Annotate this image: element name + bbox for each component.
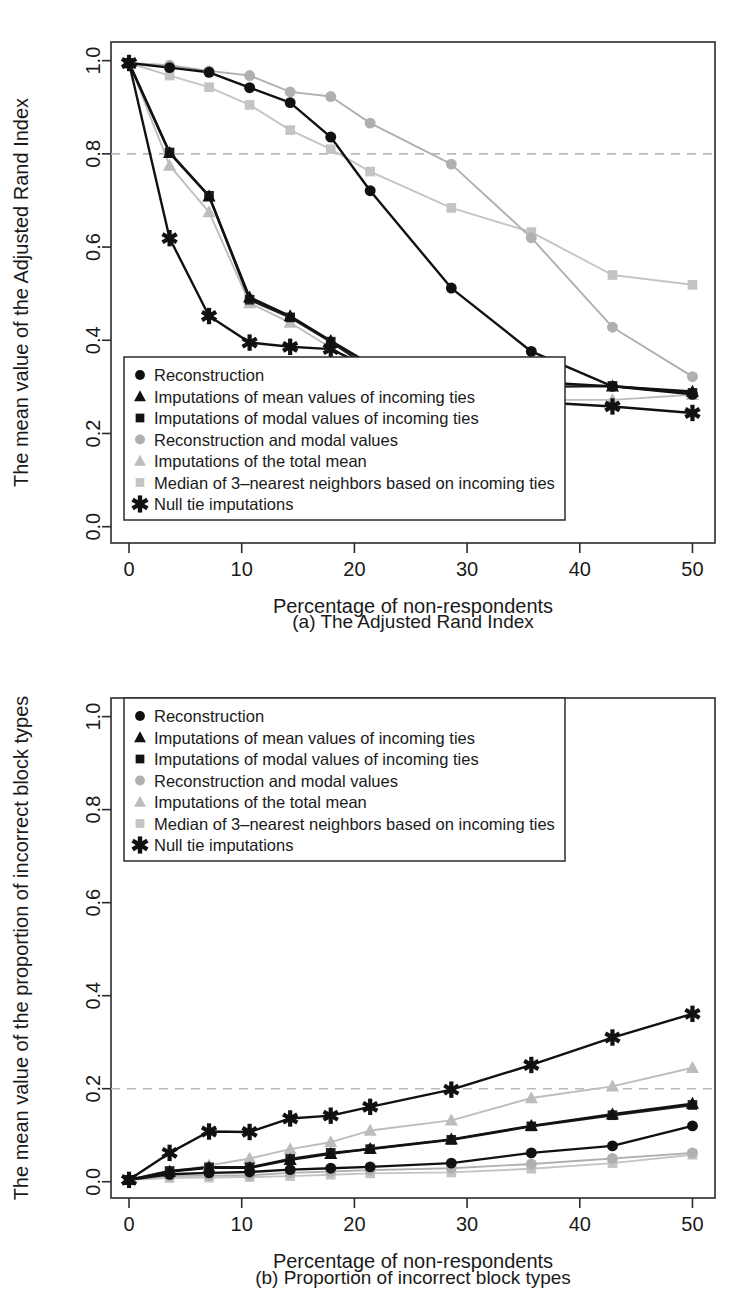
legend-marker-2-square-marker <box>136 755 145 764</box>
series-3-point-8-circle-marker <box>526 1159 537 1170</box>
x-tick-label-3: 30 <box>456 1213 478 1235</box>
x-tick-label-3: 30 <box>456 558 478 580</box>
series-5-point-2-square-marker <box>204 82 214 92</box>
series-3-point-10-circle-marker <box>687 1147 698 1158</box>
series-5-point-7-square-marker <box>446 203 456 213</box>
series-0-point-9-circle-marker <box>607 1140 618 1151</box>
series-6-point-1-asterisk-marker <box>163 1145 177 1161</box>
y-axis-title: The mean value of the Adjusted Rand Inde… <box>10 98 32 487</box>
series-3-point-9-circle-marker <box>607 1153 618 1164</box>
y-tick-label-3: 0.6 <box>82 233 104 261</box>
y-tick-label-4: 0.8 <box>82 140 104 168</box>
series-6-point-1-asterisk-marker <box>163 230 177 246</box>
legend-label-5: Median of 3–nearest neighbors based on i… <box>154 815 555 833</box>
figure-panel-a: 0.00.20.40.60.81.001020304050Percentage … <box>0 0 756 655</box>
series-5-point-9-square-marker <box>608 270 618 280</box>
y-axis-title: The mean value of the proportion of inco… <box>10 696 32 1201</box>
x-tick-label-0: 0 <box>123 558 134 580</box>
series-line-0 <box>129 63 692 394</box>
legend-marker-2-square-marker <box>136 414 145 423</box>
legend-label-6: Null tie imputations <box>154 495 293 513</box>
legend-label-6: Null tie imputations <box>154 836 293 854</box>
y-tick-label-2: 0.4 <box>82 982 104 1010</box>
series-3-point-9-circle-marker <box>607 322 618 333</box>
series-0-point-7-circle-marker <box>446 1158 457 1169</box>
series-0-point-6-circle-marker <box>365 185 376 196</box>
legend-label-5: Median of 3–nearest neighbors based on i… <box>154 474 555 492</box>
y-tick-label-1: 0.2 <box>82 420 104 448</box>
y-tick-label-0: 0.0 <box>82 1168 104 1196</box>
x-tick-label-4: 40 <box>569 558 591 580</box>
series-4-point-10-triangle-marker <box>686 1061 699 1073</box>
legend-label-0: Reconstruction <box>154 707 264 725</box>
series-5-point-5-square-marker <box>326 144 336 154</box>
series-0-point-5-circle-marker <box>325 1163 336 1174</box>
series-6-point-10-asterisk-marker <box>685 1006 699 1022</box>
legend-label-3: Reconstruction and modal values <box>154 431 398 449</box>
y-tick-label-5: 1.0 <box>82 703 104 731</box>
series-3-point-3-circle-marker <box>244 70 255 81</box>
y-tick-label-4: 0.8 <box>82 796 104 824</box>
legend-label-1: Imputations of mean values of incoming t… <box>154 388 475 406</box>
series-0-point-7-circle-marker <box>446 283 457 294</box>
series-3-point-5-circle-marker <box>325 91 336 102</box>
legend-label-4: Imputations of the total mean <box>154 452 367 470</box>
legend-label-4: Imputations of the total mean <box>154 793 367 811</box>
series-0-point-8-circle-marker <box>526 1147 537 1158</box>
series-4-point-1-triangle-marker <box>163 159 176 171</box>
panel-caption: (a) The Adjusted Rand Index <box>292 611 534 632</box>
x-tick-label-1: 10 <box>231 558 253 580</box>
y-tick-label-0: 0.0 <box>82 513 104 541</box>
chart-a-canvas: 0.00.20.40.60.81.001020304050Percentage … <box>0 0 756 655</box>
y-tick-label-5: 1.0 <box>82 47 104 75</box>
y-tick-label-1: 0.2 <box>82 1075 104 1103</box>
series-3-point-6-circle-marker <box>365 118 376 129</box>
legend-label-3: Reconstruction and modal values <box>154 772 398 790</box>
series-6-point-9-asterisk-marker <box>605 1029 619 1045</box>
legend-marker-0-circle-marker <box>135 370 145 380</box>
series-0-point-10-circle-marker <box>687 1120 698 1131</box>
series-0-point-4-circle-marker <box>285 97 296 108</box>
legend-marker-3-circle-marker <box>135 435 145 445</box>
legend-marker-5-square-marker <box>136 819 145 828</box>
legend-marker-5-square-marker <box>136 478 145 487</box>
series-5-point-4-square-marker <box>285 125 295 135</box>
series-0-point-5-circle-marker <box>325 132 336 143</box>
series-0-point-1-circle-marker <box>164 62 175 73</box>
series-0-point-3-circle-marker <box>244 82 255 93</box>
series-0-point-8-circle-marker <box>526 346 537 357</box>
series-line-4 <box>129 63 692 400</box>
x-tick-label-4: 40 <box>569 1213 591 1235</box>
x-tick-label-1: 10 <box>231 1213 253 1235</box>
panel-caption: (b) Proportion of incorrect block types <box>255 1267 571 1288</box>
x-tick-label-5: 50 <box>681 558 703 580</box>
series-6-point-2-asterisk-marker <box>202 308 216 324</box>
legend-label-1: Imputations of mean values of incoming t… <box>154 729 475 747</box>
x-tick-label-2: 20 <box>343 558 365 580</box>
x-tick-label-0: 0 <box>123 1213 134 1235</box>
chart-b-canvas: 0.00.20.40.60.81.001020304050Percentage … <box>0 655 756 1311</box>
series-line-5 <box>129 63 692 285</box>
legend-label-2: Imputations of modal values of incoming … <box>154 750 479 768</box>
legend-marker-3-circle-marker <box>135 776 145 786</box>
series-0-point-4-circle-marker <box>285 1164 296 1175</box>
legend-marker-0-circle-marker <box>135 711 145 721</box>
series-line-2 <box>129 63 692 393</box>
series-0-point-2-circle-marker <box>204 67 215 78</box>
series-3-point-8-circle-marker <box>526 232 537 243</box>
series-3-point-10-circle-marker <box>687 371 698 382</box>
series-5-point-6-square-marker <box>365 167 375 177</box>
series-6-point-8-asterisk-marker <box>524 1057 538 1073</box>
series-3-point-4-circle-marker <box>285 86 296 97</box>
series-5-point-10-square-marker <box>688 280 698 290</box>
series-0-point-6-circle-marker <box>365 1161 376 1172</box>
legend-label-2: Imputations of modal values of incoming … <box>154 409 479 427</box>
series-line-1 <box>129 63 692 392</box>
y-tick-label-2: 0.4 <box>82 326 104 354</box>
legend-label-0: Reconstruction <box>154 366 264 384</box>
x-tick-label-2: 20 <box>343 1213 365 1235</box>
x-tick-label-5: 50 <box>681 1213 703 1235</box>
series-3-point-7-circle-marker <box>446 159 457 170</box>
series-5-point-3-square-marker <box>245 100 255 110</box>
figure-panel-b: 0.00.20.40.60.81.001020304050Percentage … <box>0 655 756 1311</box>
